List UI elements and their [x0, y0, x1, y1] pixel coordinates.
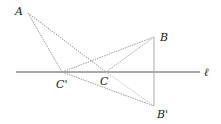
- label-C-prime: C': [56, 78, 67, 91]
- segment-A-Cprime: [28, 13, 62, 72]
- diagram-canvas: A B B' C C' ℓ: [0, 0, 221, 124]
- segment-C-Bprime: [106, 72, 154, 106]
- segment-C-B: [106, 37, 154, 72]
- label-C: C: [100, 75, 109, 88]
- segment-Cprime-B: [62, 37, 154, 72]
- label-A: A: [14, 5, 23, 18]
- label-line-l: ℓ: [204, 66, 209, 79]
- segment-A-B: [28, 13, 106, 72]
- label-B: B: [159, 31, 168, 44]
- label-B-prime: B': [156, 108, 168, 121]
